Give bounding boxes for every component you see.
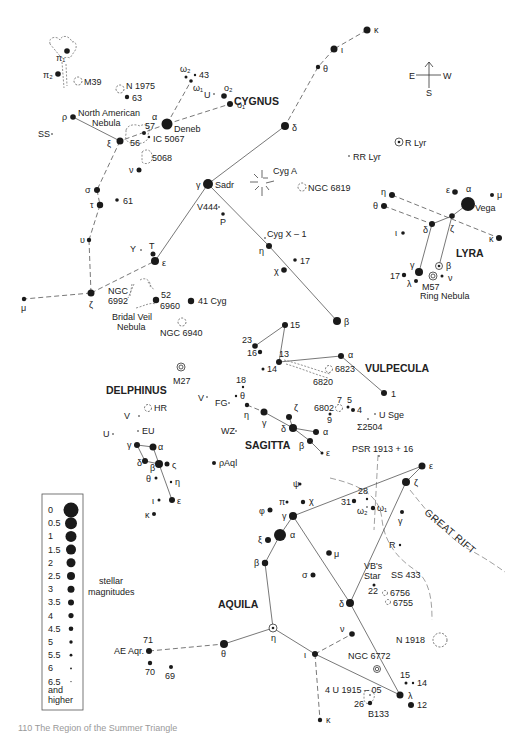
- star-dot-icon: [374, 413, 376, 415]
- star-label: κ: [489, 234, 494, 244]
- star-label: 61: [123, 196, 133, 206]
- legend-title-2: magnitudes: [88, 587, 135, 597]
- variable-star-center-icon: [398, 141, 401, 144]
- star-dot-icon: [282, 322, 288, 328]
- star-label: IC 5067: [153, 134, 185, 144]
- star-dot-icon: [158, 499, 161, 502]
- star-dot-icon: [368, 701, 372, 705]
- constellation-name: CYGNUS: [234, 95, 279, 107]
- star-dot-icon: [268, 508, 273, 513]
- star-dot-icon: [381, 203, 387, 209]
- deep-sky-label: 6755: [393, 598, 413, 608]
- star-label: ι: [304, 650, 306, 660]
- legend-magnitude-label: 5: [48, 637, 53, 647]
- star-dot-icon: [150, 444, 157, 451]
- legend-star-icon: [67, 572, 75, 580]
- cluster-icon: [178, 318, 186, 326]
- star-dot-icon: [311, 573, 316, 578]
- star-dot-icon: [429, 221, 435, 227]
- star-dot-icon: [397, 692, 404, 699]
- annotation-label: Star: [364, 571, 381, 581]
- deep-sky-label: 7: [337, 395, 342, 405]
- star-label: ε: [326, 448, 330, 458]
- star-dot-icon: [286, 501, 289, 504]
- star-dot-icon: [87, 238, 91, 242]
- star-dot-icon: [242, 386, 244, 388]
- star-label: π₁: [56, 53, 65, 63]
- constellation-line-dashed: [24, 293, 91, 299]
- star-label: 1: [391, 389, 396, 399]
- star-label: 17: [300, 256, 310, 266]
- cluster-icon: [383, 591, 388, 596]
- annotation-label: 6992: [108, 296, 128, 306]
- cluster-icon: [433, 633, 447, 647]
- star-label: ψ: [293, 479, 299, 489]
- star-dot-icon: [97, 202, 103, 208]
- star-label: α: [323, 427, 328, 437]
- star-label: κ: [374, 25, 379, 35]
- star-label: τ: [90, 200, 94, 210]
- star-dot-icon: [399, 544, 401, 546]
- star-dot-icon: [415, 268, 423, 276]
- star-dot-icon: [188, 298, 194, 304]
- star-dot-icon: [461, 197, 475, 211]
- star-label: 70: [145, 667, 155, 677]
- star-dot-icon: [213, 93, 215, 95]
- star-chart: E W S κιθδDenebαSadrγεTYζμυτσ61ξρSSν57IC…: [0, 0, 509, 736]
- star-label: δ: [423, 225, 428, 235]
- star-dot-icon: [112, 433, 114, 435]
- compass-west: W: [443, 71, 452, 81]
- cluster-icon: [74, 77, 82, 85]
- star-dot-icon: [148, 136, 150, 138]
- star-label: γ: [282, 511, 287, 521]
- cluster-icon: [386, 600, 391, 605]
- star-dot-icon: [151, 257, 159, 265]
- star-label: ζ: [414, 478, 418, 488]
- star-label: γ: [196, 180, 201, 190]
- star-dot-icon: [262, 560, 268, 566]
- star-label: κ: [145, 510, 150, 520]
- deep-sky-label: 6820: [313, 377, 333, 387]
- star-label: χ: [309, 496, 314, 506]
- constellation-line-dashed: [149, 644, 224, 651]
- star-dot-icon: [389, 192, 395, 198]
- radio-source-icon: [250, 170, 274, 196]
- star-label: λ: [408, 691, 413, 701]
- star-dot-icon: [155, 477, 158, 480]
- star-dot-icon: [326, 550, 332, 556]
- star-dot-icon: [165, 462, 170, 467]
- star-label: 5: [347, 395, 352, 405]
- star-label: ε: [429, 461, 433, 471]
- star-dot-icon: [381, 390, 387, 396]
- constellation-line-dashed: [167, 81, 191, 124]
- constellation-line: [273, 628, 315, 654]
- constellation-line-dashed: [89, 205, 100, 240]
- star-label: η: [175, 477, 180, 487]
- star-label: χ: [274, 266, 279, 276]
- labels: κιθδDenebαSadrγεTYζμυτσ61ξρSSν57IC 50675…: [21, 25, 502, 725]
- star-dot-icon: [212, 461, 216, 465]
- star-dot-icon: [125, 95, 129, 99]
- legend-magnitude-label: 6: [48, 663, 53, 673]
- star-dot-icon: [185, 76, 188, 79]
- star-label: U: [103, 429, 110, 439]
- star-dot-icon: [221, 212, 225, 216]
- star-dot-icon: [142, 458, 148, 464]
- planetary-nebula-icon: [177, 363, 185, 371]
- star-dot-icon: [405, 682, 408, 685]
- compass-south: S: [426, 88, 432, 98]
- star-label: β: [150, 463, 155, 473]
- star-label: θ: [240, 391, 245, 401]
- legend-magnitude-label: 0.5: [48, 518, 61, 528]
- star-dot-icon: [449, 213, 455, 219]
- star-label: π: [279, 497, 285, 507]
- legend-magnitude-label: 3: [48, 584, 53, 594]
- constellation-name: DELPHINUS: [106, 384, 167, 396]
- star-dot-icon: [274, 529, 286, 541]
- star-label: β: [344, 317, 349, 327]
- star-label: υ: [80, 235, 85, 245]
- star-label: 12: [417, 700, 427, 710]
- star-label: δ: [281, 424, 286, 434]
- star-label: γ: [262, 418, 267, 428]
- legend-star-icon: [65, 517, 77, 529]
